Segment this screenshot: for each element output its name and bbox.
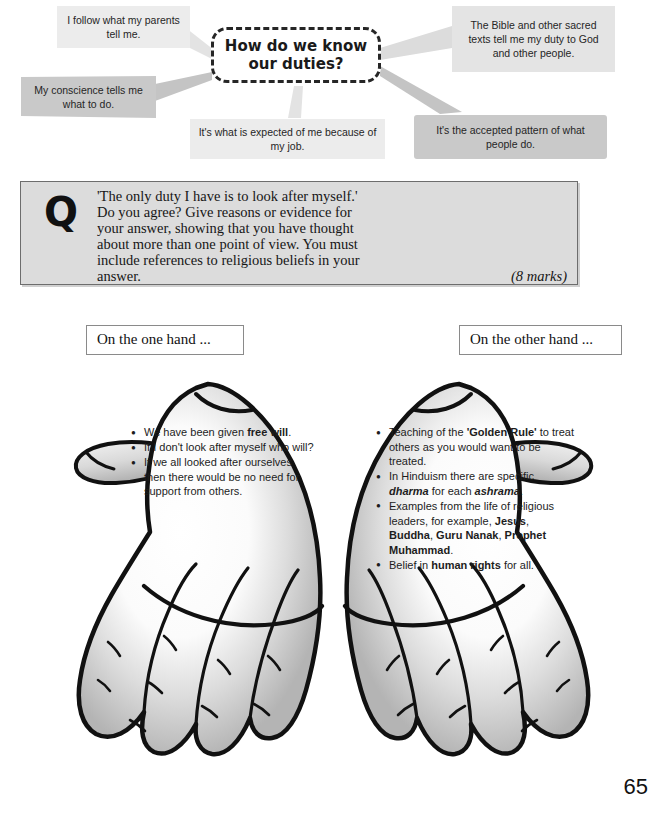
connector-bible [380,26,452,60]
question-line-6: answer. (8 marks) [97,268,567,284]
central-question-text: How do we know our duties? [214,37,378,73]
question-line-4: about more than one point of view. You m… [97,236,567,252]
bubble-conscience: My conscience tells me what to do. [21,76,156,118]
question-line-6-text: answer. [97,268,141,284]
marks-label: (8 marks) [511,268,567,284]
list-item: We have been given free will. [131,425,316,440]
list-item: Belief in human rights for all. [376,558,576,573]
connector-conscience [155,72,212,101]
label-on-the-one-hand: On the one hand ... [86,325,244,355]
label-on-the-other-hand: On the other hand ... [459,325,622,355]
bubble-job-text: It's what is expected of me because of m… [198,125,377,153]
connector-parents [186,28,214,60]
exam-question-text: 'The only duty I have is to look after m… [97,188,567,285]
question-line-5: include references to religious beliefs … [97,252,567,268]
right-hand-bullet-list: Teaching of the 'Golden Rule' to treat o… [376,425,576,573]
question-line-2: Do you agree? Give reasons or evidence f… [97,204,567,220]
list-item: Examples from the life of religious lead… [376,499,576,557]
question-letter-icon: Q [33,190,89,234]
label-one-hand-text: On the one hand ... [97,331,211,347]
list-item: If I don't look after myself who will? [131,440,316,455]
central-question-box: How do we know our duties? [211,27,381,83]
question-line-3: your answer, showing that you have thoug… [97,220,567,236]
page-number: 65 [624,774,648,800]
left-hand-bullet-list: We have been given free will. If I don't… [131,425,316,499]
bubble-bible-text: The Bible and other sacred texts tell me… [460,18,607,60]
list-item: If we all looked after ourselves then th… [131,455,316,499]
bubble-pattern-text: It's the accepted pattern of what people… [422,123,599,151]
list-item: In Hinduism there are specific dharma fo… [376,469,576,498]
bubble-conscience-text: My conscience tells me what to do. [29,83,148,111]
bubble-bible: The Bible and other sacred texts tell me… [452,6,615,72]
connector-pattern [380,66,462,114]
list-item: Teaching of the 'Golden Rule' to treat o… [376,425,576,469]
bubble-pattern: It's the accepted pattern of what people… [414,115,607,159]
label-other-hand-text: On the other hand ... [470,331,593,347]
question-line-1: 'The only duty I have is to look after m… [97,188,567,204]
bubble-parents-text: I follow what my parents tell me. [65,13,182,41]
bubble-parents: I follow what my parents tell me. [57,6,190,48]
bubble-job: It's what is expected of me because of m… [190,119,385,159]
exam-question-box: Q 'The only duty I have is to look after… [20,181,578,285]
hands-illustration: We have been given free will. If I don't… [0,358,667,768]
connector-job [288,86,303,118]
concept-map: I follow what my parents tell me. My con… [0,0,667,172]
